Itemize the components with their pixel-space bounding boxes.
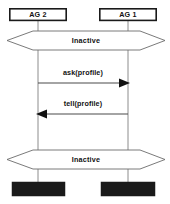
terminator-bar-ag2 (12, 182, 65, 196)
agent-box-ag1[interactable]: AG 1 (100, 9, 156, 21)
agent-box-ag2[interactable]: AG 2 (10, 9, 66, 21)
state-band-bottom[interactable]: Inactive (7, 150, 165, 169)
agent-box-ag1-label: AG 1 (119, 10, 137, 19)
agent-box-ag2-label: AG 2 (29, 10, 47, 19)
terminator-bar-ag1 (101, 182, 155, 196)
state-band-top[interactable]: Inactive (7, 31, 165, 50)
state-band-bottom-label: Inactive (72, 155, 100, 164)
sequence-diagram-canvas: AG 2 AG 1 Inactive ask(profile) tell(pro… (0, 0, 170, 204)
message-ask-profile[interactable]: ask(profile) (38, 68, 130, 88)
state-band-top-label: Inactive (72, 36, 100, 45)
message-tell-profile-label: tell(profile) (64, 99, 103, 108)
message-ask-profile-label: ask(profile) (63, 68, 103, 77)
sequence-diagram-svg: AG 2 AG 1 Inactive ask(profile) tell(pro… (0, 0, 170, 204)
message-tell-profile[interactable]: tell(profile) (36, 99, 128, 119)
